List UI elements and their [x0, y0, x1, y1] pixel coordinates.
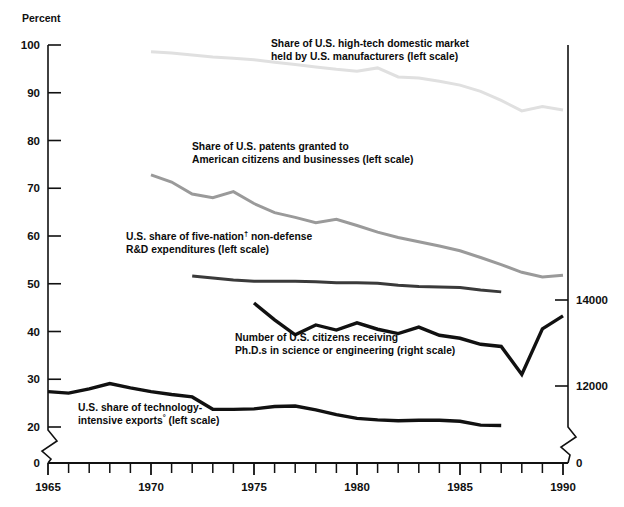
y-tick-label-left: 70 — [27, 182, 40, 194]
y-axis-title-percent: Percent — [22, 12, 61, 24]
annot-hightech: Share of U.S. high-tech domestic marketh… — [271, 38, 470, 62]
x-tick-label: 1965 — [35, 481, 61, 493]
y-tick-label-left: 60 — [27, 230, 40, 242]
y-tick-label-left: 100 — [21, 39, 40, 51]
y-tick-label-left: 0 — [34, 457, 40, 469]
y-tick-label-left: 20 — [27, 421, 40, 433]
x-tick-label: 1970 — [138, 481, 164, 493]
y-tick-label-right: 0 — [576, 457, 582, 469]
y-tick-label-right: 12000 — [576, 380, 608, 392]
x-tick-label: 1980 — [344, 481, 370, 493]
y-tick-label-left: 30 — [27, 373, 40, 385]
y-tick-label-left: 90 — [27, 87, 40, 99]
x-tick-label: 1975 — [241, 481, 267, 493]
y-tick-label-left: 40 — [27, 326, 40, 338]
y-tick-label-right: 14000 — [576, 294, 608, 306]
chart-figure: Percent 02030405060708090100 01200014000… — [0, 0, 624, 507]
y-tick-label-left: 80 — [27, 135, 40, 147]
chart-background — [0, 0, 624, 507]
x-tick-label: 1985 — [447, 481, 473, 493]
annot-exports: U.S. share of technology-intensive expor… — [78, 402, 220, 426]
y-tick-label-left: 50 — [27, 278, 40, 290]
x-tick-label: 1990 — [550, 481, 576, 493]
line-chart: Percent 02030405060708090100 01200014000… — [0, 0, 624, 507]
